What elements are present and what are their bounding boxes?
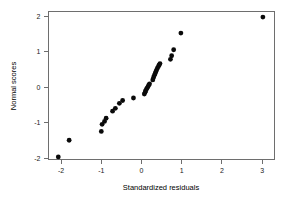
data-point [120,98,125,103]
data-point [113,106,118,111]
x-axis-ticks: -2-10123 [58,160,264,174]
y-tick-label: 2 [37,13,41,20]
data-point [179,31,184,36]
y-tick-label: 1 [37,48,41,55]
x-tick-label: -1 [98,167,104,174]
data-point [171,47,176,52]
y-tick-label: 0 [37,84,41,91]
data-point [261,15,266,20]
data-point [99,129,104,134]
chart-page: -2-10123 -2-1012 Standardized residuals … [0,0,290,197]
data-point [131,96,136,101]
x-tick-label: 0 [140,167,144,174]
qq-plot-figure: -2-10123 -2-1012 Standardized residuals … [0,0,290,197]
x-tick-label: 2 [220,167,224,174]
x-tick-label: 3 [260,167,264,174]
data-point [147,81,152,86]
y-axis-title: Normal scores [9,62,18,111]
y-tick-label: -2 [34,155,40,162]
x-tick-label: -2 [58,167,64,174]
data-point [169,53,174,58]
data-points-layer [56,15,265,160]
data-point [104,116,109,121]
plot-frame [49,12,275,160]
x-tick-label: 1 [180,167,184,174]
data-point [67,138,72,143]
data-point [56,155,61,160]
data-point [158,61,163,66]
x-axis-title: Standardized residuals [123,183,200,192]
y-tick-label: -1 [34,119,40,126]
y-axis-ticks: -2-1012 [34,13,48,162]
